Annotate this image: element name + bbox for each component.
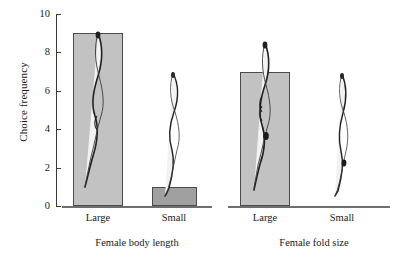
y-axis-tick-label-10: 10: [24, 9, 50, 19]
y-axis-tick-label-4: 4: [24, 124, 50, 134]
worm-illustration-fold-size-large: [246, 40, 284, 192]
worm-illustration-body-length-large: [78, 30, 118, 190]
y-axis-tick-4: [56, 129, 61, 130]
y-axis-tick-label-2: 2: [24, 163, 50, 173]
y-axis-tick-label-0: 0: [24, 201, 50, 211]
y-axis-tick-label-8: 8: [24, 47, 50, 57]
worm-illustration-body-length-small: [157, 70, 191, 198]
y-axis-tick-2: [56, 168, 61, 169]
panel-baseline-right: [228, 206, 390, 208]
category-label-fold-size-large: Large: [227, 212, 303, 223]
y-axis-line: [56, 14, 57, 207]
category-label-body-length-small: Small: [136, 212, 212, 223]
y-axis-tick-6: [56, 91, 61, 92]
panel-title-female-fold-size: Female fold size: [224, 237, 404, 248]
y-axis-tick-label-6: 6: [24, 86, 50, 96]
panel-baseline-left: [62, 206, 212, 208]
category-label-fold-size-small: Small: [304, 212, 380, 223]
category-label-body-length-large: Large: [60, 212, 136, 223]
choice-frequency-bar-chart: Choice frequency 10 8 6 4 2 0: [0, 0, 407, 263]
y-axis-tick-0: [56, 206, 61, 207]
panel-title-female-body-length: Female body length: [44, 237, 230, 248]
y-axis-tick-10: [56, 14, 61, 15]
y-axis-tick-8: [56, 52, 61, 53]
worm-illustration-fold-size-small: [326, 71, 358, 197]
